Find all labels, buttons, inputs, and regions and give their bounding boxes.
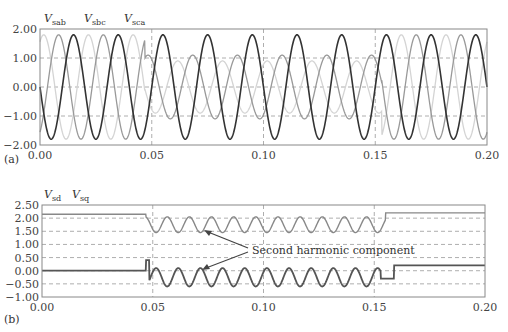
legend-label: Vsq bbox=[72, 188, 89, 203]
x-tick-label: 0.10 bbox=[251, 149, 276, 162]
y-tick-label: −1.00 bbox=[3, 110, 37, 123]
x-tick-label: 0.15 bbox=[363, 149, 388, 162]
y-tick-label: 2.50 bbox=[15, 199, 40, 212]
y-tick-label: 0.00 bbox=[15, 265, 40, 278]
panel-a-chart: 2.001.000.00−1.00−2.00 0.000.050.100.150… bbox=[3, 12, 499, 166]
panel-b-x-ticks: 0.000.050.100.150.20 bbox=[30, 301, 498, 314]
panel-a-y-ticks: 2.001.000.00−1.00−2.00 bbox=[3, 23, 37, 152]
panel-b-label: (b) bbox=[4, 313, 20, 326]
annotation-text: Second harmonic component bbox=[252, 244, 415, 257]
panel-a-label: (a) bbox=[4, 153, 19, 166]
x-tick-label: 0.05 bbox=[140, 149, 165, 162]
panel-b-y-ticks: 2.502.001.501.000.500.00−0.50−1.00 bbox=[5, 199, 39, 304]
legend-label: Vsab bbox=[44, 12, 66, 27]
x-tick-label: 0.20 bbox=[475, 149, 500, 162]
panel-b-chart: 2.502.001.501.000.500.00−0.50−1.00 0.000… bbox=[4, 188, 497, 326]
figure: 2.001.000.00−1.00−2.00 0.000.050.100.150… bbox=[0, 0, 508, 332]
panel-a-legend: VsabVsbcVsca bbox=[44, 12, 146, 27]
x-tick-label: 0.00 bbox=[28, 149, 53, 162]
y-tick-label: 2.00 bbox=[13, 23, 38, 36]
annotation-arrow-lower bbox=[206, 252, 248, 268]
y-tick-label: 1.00 bbox=[13, 52, 38, 65]
y-tick-label: 2.00 bbox=[15, 212, 40, 225]
annotation-arrow-upper bbox=[208, 232, 248, 248]
legend-label: Vsd bbox=[44, 188, 61, 203]
x-tick-label: 0.15 bbox=[362, 301, 387, 314]
legend-label: Vsca bbox=[124, 12, 146, 27]
second-harmonic-annotation: Second harmonic component bbox=[202, 230, 415, 270]
x-tick-label: 0.10 bbox=[251, 301, 276, 314]
panel-a-x-ticks: 0.000.050.100.150.20 bbox=[28, 149, 500, 162]
x-tick-label: 0.00 bbox=[30, 301, 55, 314]
panel-b-legend: VsdVsq bbox=[44, 188, 89, 203]
y-tick-label: 0.00 bbox=[13, 81, 38, 94]
legend-label: Vsbc bbox=[84, 12, 106, 27]
y-tick-label: 1.50 bbox=[15, 225, 40, 238]
x-tick-label: 0.20 bbox=[473, 301, 498, 314]
y-tick-label: 1.00 bbox=[15, 238, 40, 251]
x-tick-label: 0.05 bbox=[141, 301, 166, 314]
y-tick-label: 0.50 bbox=[15, 252, 40, 265]
y-tick-label: −0.50 bbox=[5, 278, 39, 291]
